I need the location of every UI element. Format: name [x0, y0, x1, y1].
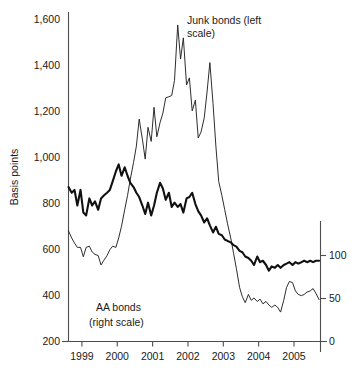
chart-canvas: 200 400 600 800 1,000 1,200 1,400 1,600 … — [0, 0, 355, 378]
y-axis-title: Basis points — [8, 149, 20, 206]
right-tick-label-50: 50 — [329, 292, 341, 304]
x-tick-label-1999: 1999 — [70, 350, 94, 362]
right-tick-label-100: 100 — [329, 249, 347, 261]
right-axis-ticks: 0 50 100 — [321, 249, 347, 347]
left-tick-label-600: 600 — [42, 243, 60, 255]
x-tick-label-2000: 2000 — [106, 350, 130, 362]
x-tick-label-2005: 2005 — [282, 350, 306, 362]
junk-annotation-line-2: scale) — [187, 27, 215, 39]
left-tick-label-1400: 1,400 — [34, 59, 60, 71]
x-tick-label-2003: 2003 — [212, 350, 236, 362]
right-tick-label-0: 0 — [329, 335, 335, 347]
x-axis-ticks: 1999200020012002200320042005 — [70, 342, 306, 362]
bond-spread-chart: 200 400 600 800 1,000 1,200 1,400 1,600 … — [0, 0, 355, 378]
series-aa-bonds — [69, 164, 320, 270]
left-tick-label-1000: 1,000 — [34, 151, 60, 163]
x-tick-label-2004: 2004 — [247, 350, 271, 362]
aa-annotation-line-2: (right scale) — [89, 316, 144, 328]
series-junk-bonds — [69, 25, 320, 312]
aa-bonds-annotation: AA bonds (right scale) — [89, 301, 144, 328]
left-tick-label-200: 200 — [42, 335, 60, 347]
left-tick-label-400: 400 — [42, 289, 60, 301]
aa-annotation-line-1: AA bonds — [96, 301, 141, 313]
x-tick-label-2001: 2001 — [141, 350, 165, 362]
left-tick-label-1200: 1,200 — [34, 105, 60, 117]
left-tick-label-1600: 1,600 — [34, 13, 60, 25]
left-tick-label-800: 800 — [42, 197, 60, 209]
left-axis-ticks: 200 400 600 800 1,000 1,200 1,400 1,600 — [34, 13, 69, 347]
junk-bonds-annotation: Junk bonds (left scale) — [187, 14, 261, 39]
x-tick-label-2002: 2002 — [176, 350, 200, 362]
junk-annotation-line-1: Junk bonds (left — [187, 14, 261, 26]
